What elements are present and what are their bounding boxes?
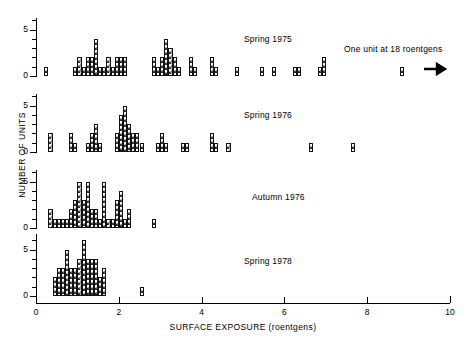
histogram-bar bbox=[351, 143, 355, 152]
y-tick bbox=[30, 152, 37, 153]
histogram-bar bbox=[297, 67, 301, 76]
histogram-figure: NUMBER OF UNITS 05Spring 1975One unit at… bbox=[0, 0, 467, 345]
outlier-annotation-text: One unit at 18 roentgens bbox=[344, 44, 442, 54]
histogram-bar bbox=[260, 67, 264, 76]
histogram-bar bbox=[140, 143, 144, 152]
x-tick bbox=[202, 297, 203, 303]
x-tick-label: 4 bbox=[199, 307, 204, 317]
histogram-bar bbox=[44, 67, 48, 76]
histogram-bar bbox=[214, 143, 218, 152]
histogram-bar bbox=[193, 67, 197, 76]
panel-label-3: Autumn 1976 bbox=[252, 192, 305, 202]
y-tick bbox=[30, 76, 37, 77]
x-axis-line bbox=[36, 303, 450, 304]
histogram-bar bbox=[272, 67, 276, 76]
bar-group bbox=[36, 234, 450, 296]
x-tick-label: 10 bbox=[445, 307, 454, 317]
x-tick bbox=[450, 296, 451, 303]
y-tick-label: 5 bbox=[14, 101, 28, 110]
histogram-bar bbox=[73, 143, 77, 152]
histogram-bar bbox=[152, 219, 156, 228]
panel-label-1: Spring 1975 bbox=[244, 34, 292, 44]
panel-3: 05Autumn 1976 bbox=[36, 170, 450, 228]
histogram-bar bbox=[164, 143, 168, 152]
y-tick-label: 0 bbox=[14, 71, 28, 80]
histogram-bar bbox=[214, 67, 218, 76]
x-tick bbox=[36, 296, 37, 303]
panel-1: 05Spring 1975One unit at 18 roentgens bbox=[36, 18, 450, 76]
y-tick bbox=[30, 228, 37, 229]
plot-area: 05 bbox=[36, 170, 450, 228]
histogram-bar bbox=[235, 67, 239, 76]
histogram-bar bbox=[140, 287, 144, 296]
x-tick-label: 2 bbox=[116, 307, 121, 317]
histogram-bar bbox=[177, 67, 181, 76]
y-tick-label: 5 bbox=[14, 177, 28, 186]
y-tick-label: 0 bbox=[14, 147, 28, 156]
plot-area: 05 bbox=[36, 234, 450, 296]
y-tick-label: 0 bbox=[14, 291, 28, 300]
histogram-bar bbox=[127, 209, 131, 228]
histogram-bar bbox=[226, 143, 230, 152]
y-tick-label: 0 bbox=[14, 223, 28, 232]
histogram-bar bbox=[185, 143, 189, 152]
histogram-bar bbox=[48, 133, 52, 152]
x-axis-title: SURFACE EXPOSURE (roentgens) bbox=[36, 322, 450, 332]
panel-4: 05Spring 1978 bbox=[36, 234, 450, 296]
outlier-marker-bar bbox=[400, 67, 404, 76]
x-tick bbox=[367, 297, 368, 303]
x-tick bbox=[119, 297, 120, 303]
panel-label-2: Spring 1976 bbox=[244, 110, 292, 120]
x-tick bbox=[284, 297, 285, 303]
histogram-bar bbox=[98, 143, 102, 152]
bar-group bbox=[36, 94, 450, 152]
y-tick-label: 5 bbox=[14, 245, 28, 254]
panel-2: 05Spring 1976 bbox=[36, 94, 450, 152]
bar-group bbox=[36, 170, 450, 228]
x-tick-label: 8 bbox=[365, 307, 370, 317]
right-arrow-icon bbox=[424, 62, 450, 80]
histogram-bar bbox=[322, 57, 326, 76]
histogram-bar bbox=[309, 143, 313, 152]
panel-label-4: Spring 1978 bbox=[244, 256, 292, 266]
y-tick-label: 5 bbox=[14, 25, 28, 34]
x-tick-label: 0 bbox=[34, 307, 39, 317]
histogram-bar bbox=[102, 268, 106, 296]
plot-area: 05 bbox=[36, 94, 450, 152]
x-tick-label: 6 bbox=[282, 307, 287, 317]
histogram-bar bbox=[123, 57, 127, 76]
